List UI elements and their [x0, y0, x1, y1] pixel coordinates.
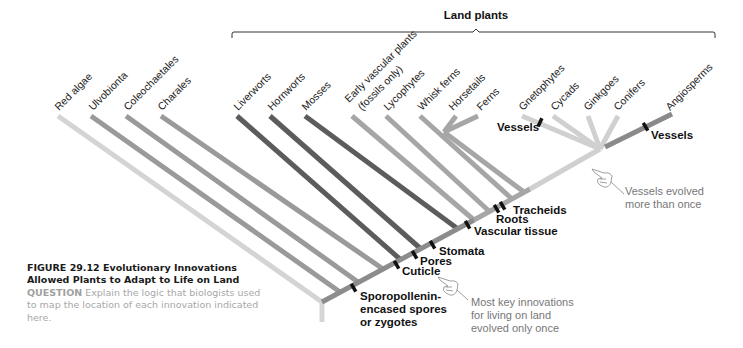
- taxon-label: Ferns: [474, 85, 501, 112]
- innovation-label: Tracheids: [513, 204, 567, 216]
- taxon-label: Cycads: [548, 79, 581, 112]
- innovation-label: encased spores: [360, 303, 447, 315]
- figure-title: FIGURE 29.12 Evolutionary Innovations Al…: [27, 262, 267, 287]
- taxon-labels: Red algae Ulvobionta Coleochaetales Char…: [52, 27, 715, 112]
- innovation-label: or zygotes: [360, 316, 418, 328]
- land-plants-bracket: [232, 29, 715, 38]
- note-vessels: Vessels evolved: [625, 185, 704, 197]
- figure-caption: FIGURE 29.12 Evolutionary Innovations Al…: [27, 262, 267, 324]
- taxon-label: Angiosperms: [663, 61, 715, 113]
- innovation-label: Vascular tissue: [474, 225, 558, 237]
- innovation-label: Stomata: [439, 245, 485, 257]
- innovation-label: Vessels: [497, 121, 539, 133]
- question-label: QUESTION: [27, 287, 82, 298]
- branch-coleochaetales: [126, 116, 358, 282]
- taxon-label: Mosses: [299, 78, 333, 112]
- pointing-hand-icon: [592, 169, 624, 194]
- note-key-innovations: Most key innovations: [471, 296, 574, 308]
- note-key-innovations: for living on land: [471, 309, 551, 321]
- land-plants-title: Land plants: [444, 9, 509, 21]
- innovation-label: Sporopollenin-: [360, 290, 441, 302]
- pointing-hand-icon: [438, 277, 468, 300]
- innovation-label: Vessels: [651, 129, 693, 141]
- note-vessels: more than once: [625, 198, 701, 210]
- trunk-seed-plants: [530, 149, 600, 189]
- note-key-innovations: evolved only once: [471, 322, 559, 334]
